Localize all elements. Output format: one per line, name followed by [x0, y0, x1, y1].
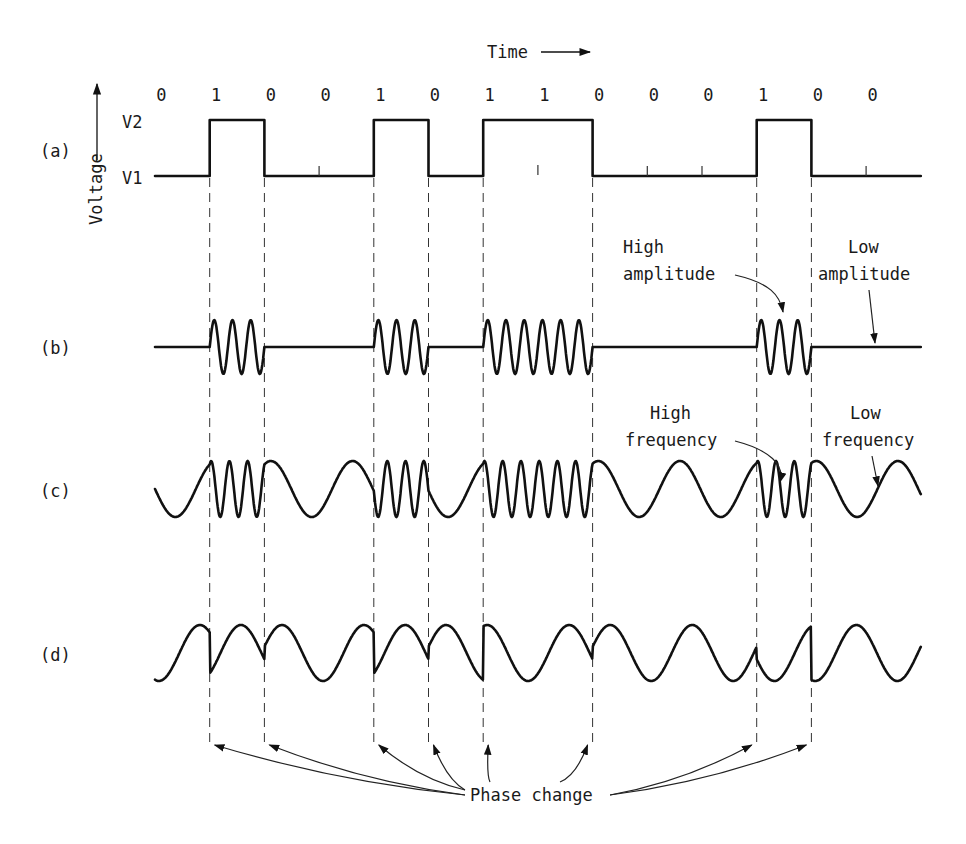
bit-label: 1 [539, 85, 549, 105]
high-amplitude-label-line2: amplitude [623, 264, 715, 284]
bit-label: 0 [813, 85, 823, 105]
high-frequency-label-line2: frequency [625, 430, 717, 450]
bit-label: 0 [430, 85, 440, 105]
phase-change-arrow-icon [610, 745, 806, 795]
phase-change-label: Phase change [470, 785, 593, 805]
bit-label: 1 [758, 85, 768, 105]
phase-change-arrow-icon [560, 745, 588, 782]
diagram-canvas: Time Voltage V2 V1 (a) (b) (c) (d) 01001… [0, 0, 966, 844]
high-amplitude-arrow-icon [735, 275, 783, 312]
bit-label: 1 [375, 85, 385, 105]
waveform-b-amplitude-modulated [155, 320, 921, 374]
low-amplitude-label-line2: amplitude [818, 264, 910, 284]
bit-labels: 01001011000100 [156, 85, 877, 105]
bit-label: 0 [594, 85, 604, 105]
phase-change-arrow-icon [488, 745, 490, 782]
waveform-c-frequency-modulated [155, 461, 921, 517]
row-label-c: (c) [40, 481, 71, 501]
phase-change-arrow-icon [215, 745, 465, 795]
row-label-a: (a) [40, 141, 71, 161]
low-frequency-label-line1: Low [850, 403, 881, 423]
low-frequency-label-line2: frequency [822, 430, 914, 450]
low-amplitude-arrow-icon [869, 290, 875, 343]
bit-label: 0 [703, 85, 713, 105]
bit-label: 0 [156, 85, 166, 105]
bit-label: 0 [320, 85, 330, 105]
bit-label: 1 [485, 85, 495, 105]
level-v2-label: V2 [122, 112, 142, 132]
low-amplitude-label-line1: Low [848, 237, 879, 257]
phase-change-arrow-icon [434, 745, 466, 790]
time-label: Time [487, 42, 528, 62]
waveform-d-phase-modulated [155, 625, 921, 681]
phase-change-arrow-icon [379, 745, 465, 790]
bit-label: 0 [266, 85, 276, 105]
high-amplitude-label-line1: High [623, 237, 664, 257]
level-v1-label: V1 [122, 168, 142, 188]
voltage-label: Voltage [86, 153, 106, 225]
phase-change-arrow-icon [269, 745, 465, 795]
high-frequency-label-line1: High [650, 403, 691, 423]
row-label-d: (d) [40, 645, 71, 665]
low-frequency-arrow-icon [872, 456, 878, 486]
modulation-diagram: Time Voltage V2 V1 (a) (b) (c) (d) 01001… [0, 0, 966, 844]
bit-label: 1 [211, 85, 221, 105]
bit-label: 0 [649, 85, 659, 105]
row-label-b: (b) [40, 338, 71, 358]
bit-label: 0 [867, 85, 877, 105]
